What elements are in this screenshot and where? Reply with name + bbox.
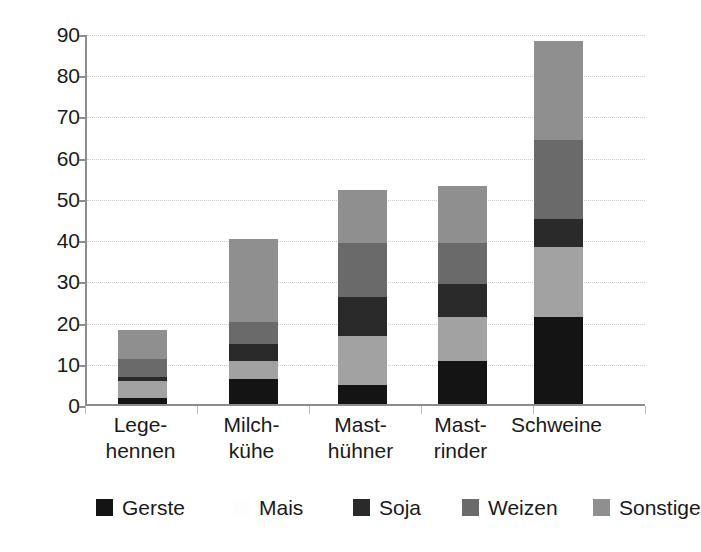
x-axis-label-line: hennen: [81, 438, 201, 464]
bar-segment[interactable]: [438, 361, 487, 404]
x-axis-category-label: Milch-kühe: [192, 412, 312, 464]
x-axis-label-line: rinder: [401, 438, 521, 464]
bar-segment[interactable]: [534, 41, 583, 140]
bar-segment[interactable]: [338, 385, 387, 404]
bar-segment[interactable]: [338, 336, 387, 385]
chart-legend: GersteMaisSojaWeizenSonstige: [96, 497, 656, 527]
legend-label: Soja: [379, 497, 421, 518]
legend-swatch-icon: [462, 499, 479, 516]
legend-item-weizen[interactable]: Weizen: [462, 497, 558, 518]
bar-segment[interactable]: [118, 398, 167, 404]
legend-swatch-icon: [233, 499, 250, 516]
bar-segment[interactable]: [229, 322, 278, 345]
bar-segment[interactable]: [229, 344, 278, 360]
legend-swatch-icon: [353, 499, 370, 516]
x-axis-label-line: Lege-: [81, 412, 201, 438]
legend-swatch-icon: [96, 499, 113, 516]
bar-segment[interactable]: [229, 239, 278, 321]
legend-label: Weizen: [488, 497, 558, 518]
bar-segment[interactable]: [229, 379, 278, 404]
bar-segment[interactable]: [438, 317, 487, 360]
bar-segment[interactable]: [338, 243, 387, 297]
legend-item-mais[interactable]: Mais: [233, 497, 303, 518]
bar-segment[interactable]: [118, 381, 167, 397]
bar-segment[interactable]: [338, 297, 387, 336]
bar-segment[interactable]: [338, 190, 387, 244]
bar-segment[interactable]: [118, 359, 167, 378]
legend-item-gerste[interactable]: Gerste: [96, 497, 185, 518]
bar-segment[interactable]: [534, 247, 583, 317]
bar-segment[interactable]: [438, 284, 487, 317]
x-axis-label-line: Milch-: [192, 412, 312, 438]
legend-label: Sonstige: [619, 497, 701, 518]
bar-segment[interactable]: [534, 317, 583, 404]
bar-group[interactable]: [338, 190, 387, 404]
gridline: [87, 35, 645, 36]
bar-group[interactable]: [534, 41, 583, 404]
legend-item-soja[interactable]: Soja: [353, 497, 421, 518]
plot-area: [85, 35, 645, 406]
x-axis-category-label: Schweine: [497, 412, 617, 438]
legend-swatch-icon: [593, 499, 610, 516]
legend-label: Gerste: [122, 497, 185, 518]
bar-segment[interactable]: [118, 330, 167, 359]
x-axis-tick-mark: [645, 406, 646, 414]
x-axis-category-label: Lege-hennen: [81, 412, 201, 464]
bar-segment[interactable]: [438, 186, 487, 244]
x-axis-label-line: Schweine: [497, 412, 617, 438]
bar-group[interactable]: [438, 186, 487, 404]
bar-segment[interactable]: [534, 219, 583, 248]
bar-group[interactable]: [118, 330, 167, 404]
y-axis-tick-marks: [0, 35, 90, 406]
bar-group[interactable]: [229, 239, 278, 404]
legend-label: Mais: [259, 497, 303, 518]
bar-segment[interactable]: [534, 140, 583, 218]
bar-segment[interactable]: [438, 243, 487, 284]
legend-item-sonstige[interactable]: Sonstige: [593, 497, 701, 518]
x-axis-label-line: kühe: [192, 438, 312, 464]
x-axis-labels: Lege-hennenMilch-küheMast-hühnerMast-rin…: [85, 412, 645, 474]
bar-segment[interactable]: [229, 361, 278, 380]
